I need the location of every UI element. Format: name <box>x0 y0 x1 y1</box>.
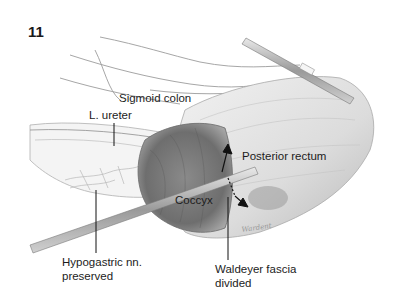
label-waldeyer-fascia: Waldeyer fascia divided <box>215 262 296 290</box>
label-hypogastric-line1: Hypogastric nn. <box>62 255 142 269</box>
label-waldeyer-line1: Waldeyer fascia <box>215 262 296 276</box>
label-l-ureter: L. ureter <box>89 108 132 122</box>
figure-number: 11 <box>28 23 44 40</box>
label-posterior-rectum: Posterior rectum <box>242 149 326 163</box>
label-hypogastric-line2: preserved <box>62 269 142 283</box>
surgical-illustration: Wardent <box>0 0 402 308</box>
label-sigmoid-colon: Sigmoid colon <box>119 91 191 105</box>
label-coccyx: Coccyx <box>175 193 213 207</box>
label-hypogastric-nerves: Hypogastric nn. preserved <box>62 255 142 283</box>
label-waldeyer-line2: divided <box>215 276 296 290</box>
